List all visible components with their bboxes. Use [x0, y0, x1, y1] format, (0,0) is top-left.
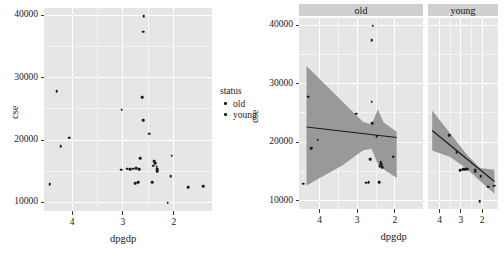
gridline-minor-vertical [97, 8, 98, 211]
data-point [378, 181, 381, 184]
facet-strip-label: young [451, 5, 476, 16]
left-xtick-label: 2 [165, 218, 183, 228]
legend-point-icon [220, 98, 231, 109]
axis-tick-x [357, 209, 358, 213]
left-ytick-label: 40000 [0, 10, 38, 20]
axis-tick-x [394, 209, 395, 213]
left-y-axis-title: cse [9, 105, 20, 118]
data-point [170, 154, 173, 157]
data-point [381, 166, 384, 169]
facet-old-xtick-label: 2 [386, 216, 404, 226]
confidence-band [432, 111, 494, 194]
data-point [141, 96, 144, 99]
data-point [152, 164, 155, 167]
facet-young-xtick-label: 3 [452, 216, 470, 226]
data-point [68, 136, 71, 139]
facet-old-xtick-label: 4 [311, 216, 329, 226]
data-point [302, 183, 305, 186]
facet-young-xtick-label: 4 [431, 216, 449, 226]
data-point [310, 147, 313, 150]
data-point [307, 95, 310, 98]
gridline-minor-horizontal [44, 108, 212, 109]
facet-strip-young: young [428, 4, 498, 16]
axis-tick-y [296, 200, 300, 201]
facet-old-xtick-label: 3 [348, 216, 366, 226]
facet-young-xtick-label: 2 [473, 216, 491, 226]
data-point [142, 15, 145, 18]
data-point [370, 39, 373, 42]
axis-tick-x [319, 209, 320, 213]
data-point [120, 169, 123, 172]
regression-line [432, 131, 494, 182]
right-ytick-label: 10000 [255, 196, 293, 206]
gridline-horizontal [44, 77, 212, 78]
data-point [148, 132, 151, 135]
facet-panel-young [428, 18, 498, 209]
data-point [55, 90, 58, 93]
left-panel-background [44, 8, 212, 211]
legend-point-icon [220, 109, 231, 120]
gridline-vertical [173, 8, 174, 211]
data-point [478, 200, 481, 203]
gridline-minor-horizontal [44, 171, 212, 172]
right-ytick-label: 40000 [255, 20, 293, 30]
axis-tick-y [41, 202, 45, 203]
data-point [121, 108, 124, 111]
smooth-layer [428, 18, 498, 209]
axis-tick-y [296, 142, 300, 143]
data-point [60, 145, 63, 148]
axis-tick-x [482, 209, 483, 213]
right-y-axis-title: cse [249, 109, 260, 122]
data-point [169, 175, 172, 178]
gridline-horizontal [44, 15, 212, 16]
data-point [202, 185, 205, 188]
axis-tick-y [296, 25, 300, 26]
data-point [138, 168, 141, 171]
data-point [493, 184, 496, 187]
axis-tick-x [122, 211, 123, 215]
legend-item-old[interactable]: old [220, 98, 257, 109]
left-x-axis-title: dpgdp [110, 233, 136, 244]
data-point [455, 151, 458, 154]
data-point [369, 158, 372, 161]
data-point [487, 185, 490, 188]
axis-tick-x [72, 211, 73, 215]
axis-tick-x [439, 209, 440, 213]
data-point [466, 168, 469, 171]
right-x-axis-title: dpgdp [381, 231, 407, 242]
data-point [139, 157, 142, 160]
data-point [355, 112, 358, 115]
data-point [316, 139, 319, 142]
data-point [137, 181, 140, 184]
data-point [375, 135, 378, 138]
axis-tick-y [41, 15, 45, 16]
right-ytick-label: 20000 [255, 137, 293, 147]
data-point [474, 171, 477, 174]
data-point [187, 186, 190, 189]
axis-tick-x [460, 209, 461, 213]
legend-title: status [220, 86, 257, 96]
data-point [48, 183, 51, 186]
axis-tick-y [41, 77, 45, 78]
data-point [367, 181, 370, 184]
data-point [142, 119, 145, 122]
data-point [142, 30, 145, 33]
data-point [392, 156, 395, 159]
left-xtick-label: 4 [63, 218, 81, 228]
data-point [156, 170, 159, 173]
legend-item-label: old [233, 99, 245, 109]
gridline-horizontal [44, 140, 212, 141]
gridline-horizontal [44, 202, 212, 203]
gridline-minor-horizontal [44, 46, 212, 47]
figure-root: 40000 30000 20000 10000 4 3 2 dpgdp cse … [0, 0, 504, 262]
right-ytick-label: 30000 [255, 79, 293, 89]
axis-tick-y [296, 83, 300, 84]
gridline-minor-vertical [148, 8, 149, 211]
facet-strip-label: old [355, 5, 368, 16]
smooth-layer [299, 18, 423, 209]
left-ytick-label: 20000 [0, 135, 38, 145]
left-xtick-label: 3 [114, 218, 132, 228]
data-point [371, 122, 374, 125]
gridline-vertical [72, 8, 73, 211]
data-point [370, 100, 373, 103]
